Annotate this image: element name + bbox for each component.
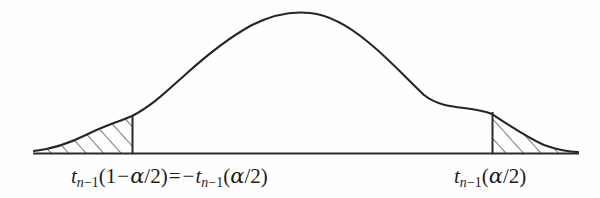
lower-tail-shaded-region	[20, 95, 160, 165]
upper-tail-shaded-region	[480, 95, 600, 165]
figure-canvas	[0, 0, 600, 198]
t-distribution-figure: tn−1(1−α/2)=−tn−1(α/2) tn−1(α/2)	[0, 0, 600, 198]
